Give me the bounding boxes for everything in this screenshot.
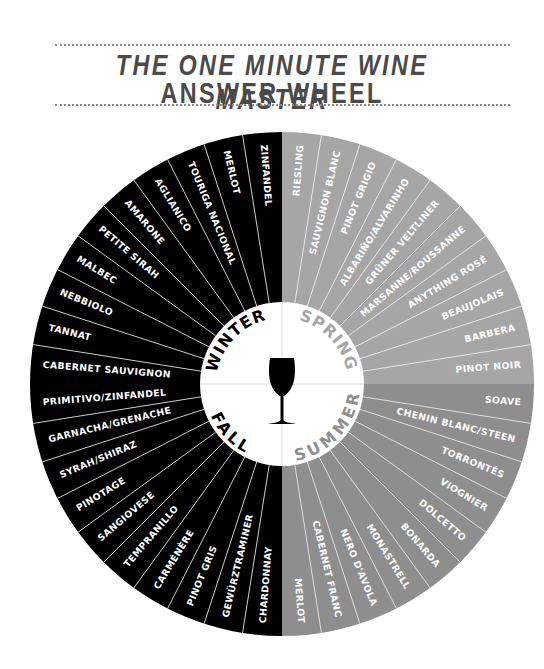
answer-wheel: CABERNET SAUVIGNONTANNATNEBBIOLOMALBECPE… xyxy=(0,0,544,669)
